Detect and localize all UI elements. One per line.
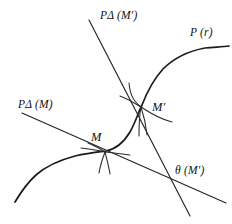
whisker-mprime-arc-lower — [141, 107, 147, 135]
label-point-m: M — [91, 131, 102, 144]
label-polar-m: PΔ (M) — [18, 99, 53, 111]
whisker-m-arc-lower — [105, 152, 110, 174]
label-theta-mprime: θ (M′) — [175, 165, 204, 177]
label-polar-mprime: PΔ (M′) — [100, 10, 138, 22]
whiskers-m — [81, 143, 130, 174]
polar-line-m — [22, 113, 226, 203]
whisker-m-tick — [99, 152, 105, 173]
label-curve-p-r: P (r) — [190, 27, 213, 39]
label-point-mprime: M′ — [152, 101, 166, 114]
geometry-figure: PΔ (M′) P (r) PΔ (M) M′ M θ (M′) — [0, 0, 232, 224]
